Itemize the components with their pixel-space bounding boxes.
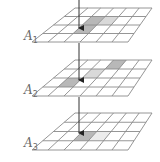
- layer-a3: A3: [23, 97, 152, 152]
- layer-a1: A1: [23, 0, 152, 45]
- layer-label: A1: [23, 29, 38, 45]
- layer-label: A3: [23, 136, 38, 152]
- layer-a2: A2: [23, 43, 152, 99]
- layer-label: A2: [23, 83, 38, 99]
- layer-label-subscript: 2: [33, 90, 38, 99]
- stacked-grid-layers-diagram: A1A2A3: [0, 0, 160, 162]
- layer-label-subscript: 1: [33, 36, 38, 45]
- layer-label-subscript: 3: [33, 143, 38, 152]
